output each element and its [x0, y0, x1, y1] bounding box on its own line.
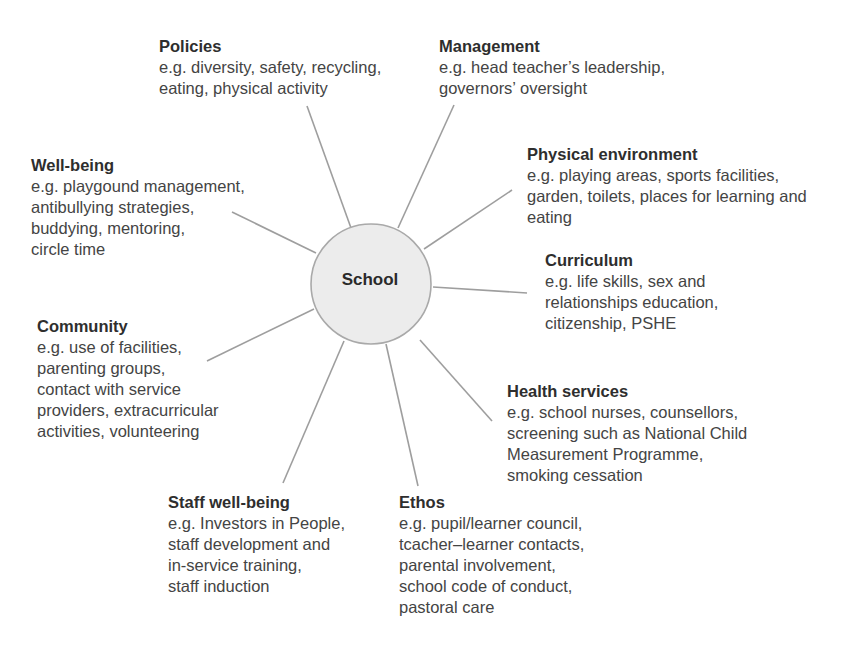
node-text: staff induction	[168, 576, 345, 597]
node-text: e.g. Investors in People,	[168, 513, 345, 534]
node-text: e.g. pupil/learner council,	[399, 513, 584, 534]
node-policies: Policies e.g. diversity, safety, recycli…	[159, 36, 381, 99]
node-text: eating	[527, 207, 807, 228]
spoke-management	[398, 105, 454, 228]
node-title: Physical environment	[527, 144, 807, 165]
node-text: smoking cessation	[507, 465, 747, 486]
node-title: Health services	[507, 381, 747, 402]
node-ethos: Ethos e.g. pupil/learner council, tcache…	[399, 492, 584, 618]
spoke-ethos	[386, 344, 418, 486]
node-text: parental involvement,	[399, 555, 584, 576]
node-health-services: Health services e.g. school nurses, coun…	[507, 381, 747, 486]
node-title: Management	[439, 36, 665, 57]
node-title: Curriculum	[545, 250, 718, 271]
node-text: Measurement Programme,	[507, 444, 747, 465]
node-text: school code of conduct,	[399, 576, 584, 597]
node-text: governors’ oversight	[439, 78, 665, 99]
node-physical-environment: Physical environment e.g. playing areas,…	[527, 144, 807, 228]
node-title: Well-being	[31, 155, 245, 176]
node-text: relationships education,	[545, 292, 718, 313]
node-text: garden, toilets, places for learning and	[527, 186, 807, 207]
node-text: e.g. life skills, sex and	[545, 271, 718, 292]
node-text: buddying, mentoring,	[31, 218, 245, 239]
node-text: activities, volunteering	[37, 421, 219, 442]
center-label-school: School	[311, 270, 429, 290]
node-text: screening such as National Child	[507, 423, 747, 444]
node-well-being: Well-being e.g. playgound management, an…	[31, 155, 245, 260]
spoke-health-services	[420, 340, 492, 421]
spoke-physical-environment	[424, 190, 512, 249]
node-text: parenting groups,	[37, 358, 219, 379]
node-text: e.g. diversity, safety, recycling,	[159, 57, 381, 78]
spoke-curriculum	[433, 287, 527, 293]
spoke-staff-well-being	[283, 341, 344, 483]
node-management: Management e.g. head teacher’s leadershi…	[439, 36, 665, 99]
node-text: providers, extracurricular	[37, 400, 219, 421]
node-text: pastoral care	[399, 597, 584, 618]
node-text: eating, physical activity	[159, 78, 381, 99]
node-text: staff development and	[168, 534, 345, 555]
node-text: antibullying strategies,	[31, 197, 245, 218]
node-text: e.g. head teacher’s leadership,	[439, 57, 665, 78]
node-text: contact with service	[37, 379, 219, 400]
node-text: e.g. playgound management,	[31, 176, 245, 197]
node-community: Community e.g. use of facilities, parent…	[37, 316, 219, 442]
node-text: citizenship, PSHE	[545, 313, 718, 334]
node-title: Policies	[159, 36, 381, 57]
node-title: Community	[37, 316, 219, 337]
spoke-community	[207, 309, 314, 361]
node-text: e.g. playing areas, sports facilities,	[527, 165, 807, 186]
node-title: Ethos	[399, 492, 584, 513]
spoke-policies	[307, 106, 351, 228]
node-curriculum: Curriculum e.g. life skills, sex and rel…	[545, 250, 718, 334]
node-text: circle time	[31, 239, 245, 260]
node-text: tcacher–learner contacts,	[399, 534, 584, 555]
node-staff-well-being: Staff well-being e.g. Investors in Peopl…	[168, 492, 345, 597]
node-text: e.g. use of facilities,	[37, 337, 219, 358]
node-text: in-service training,	[168, 555, 345, 576]
node-text: e.g. school nurses, counsellors,	[507, 402, 747, 423]
node-title: Staff well-being	[168, 492, 345, 513]
